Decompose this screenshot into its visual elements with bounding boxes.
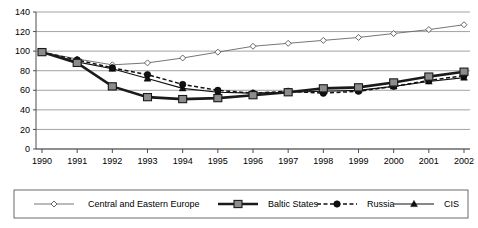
- data-point-marker: [425, 73, 433, 80]
- series-3: [39, 49, 468, 96]
- data-point-marker: [461, 22, 467, 28]
- data-point-marker: [144, 71, 150, 77]
- data-point-marker: [73, 59, 81, 66]
- data-point-marker: [285, 40, 291, 46]
- series-1: [38, 49, 468, 103]
- series-line: [42, 52, 464, 93]
- legend: Central and Eastern EuropeBaltic StatesR…: [14, 190, 468, 218]
- x-tick-labels: 1990199119921993199419951996199719981999…: [32, 149, 474, 166]
- data-point-marker: [284, 89, 292, 96]
- legend-label: Russia: [367, 199, 395, 209]
- data-point-marker: [51, 201, 57, 207]
- legend-label: Baltic States: [268, 199, 319, 209]
- x-tick-label: 1993: [137, 156, 157, 166]
- data-point-marker: [356, 34, 362, 40]
- data-point-marker: [215, 49, 221, 55]
- data-point-marker: [319, 85, 327, 92]
- legend-item-baltic-states[interactable]: Baltic States: [218, 199, 319, 209]
- data-point-marker: [390, 79, 398, 86]
- series-0: [39, 22, 467, 68]
- legend-item-cis[interactable]: CIS: [394, 199, 459, 209]
- y-tick-label: 80: [20, 66, 30, 76]
- data-point-marker: [460, 68, 468, 75]
- x-tick-label: 1991: [67, 156, 87, 166]
- x-tick-label: 1998: [313, 156, 333, 166]
- y-tick-label: 40: [20, 105, 30, 115]
- legend-item-russia[interactable]: Russia: [317, 199, 395, 209]
- legend-label: CIS: [444, 199, 459, 209]
- data-point-marker: [334, 201, 340, 207]
- data-point-marker: [109, 65, 115, 71]
- line-chart: 020406080100120140 199019911992199319941…: [0, 0, 478, 228]
- x-tick-label: 1994: [173, 156, 193, 166]
- data-point-marker: [320, 37, 326, 43]
- y-tick-label: 100: [15, 46, 30, 56]
- legend-item-central-and-eastern-europe[interactable]: Central and Eastern Europe: [34, 199, 200, 209]
- legend-label: Central and Eastern Europe: [88, 199, 200, 209]
- x-tick-label: 2000: [384, 156, 404, 166]
- data-point-marker: [179, 95, 187, 102]
- x-tick-label: 2001: [419, 156, 439, 166]
- x-tick-label: 2002: [454, 156, 474, 166]
- y-tick-label: 20: [20, 125, 30, 135]
- y-tick-label: 60: [20, 85, 30, 95]
- x-tick-label: 1990: [32, 156, 52, 166]
- data-point-marker: [249, 92, 257, 99]
- data-point-marker: [214, 95, 222, 102]
- data-point-marker: [250, 43, 256, 49]
- series-line: [42, 52, 464, 93]
- y-tick-labels: 020406080100120140: [15, 7, 36, 154]
- x-tick-label: 1995: [208, 156, 228, 166]
- y-tick-label: 0: [25, 144, 30, 154]
- x-tick-label: 1997: [278, 156, 298, 166]
- y-tick-label: 120: [15, 27, 30, 37]
- data-point-marker: [108, 83, 116, 90]
- data-point-marker: [234, 200, 242, 207]
- x-tick-label: 1999: [348, 156, 368, 166]
- chart-page: 020406080100120140 199019911992199319941…: [0, 0, 478, 228]
- data-point-marker: [180, 55, 186, 61]
- data-point-marker: [179, 81, 185, 87]
- data-point-marker: [145, 60, 151, 66]
- x-tick-label: 1992: [102, 156, 122, 166]
- data-point-marker: [38, 49, 46, 56]
- data-point-marker: [144, 94, 152, 101]
- x-tick-label: 1996: [243, 156, 263, 166]
- data-point-marker: [215, 87, 221, 93]
- y-tick-label: 140: [15, 7, 30, 17]
- data-point-marker: [355, 84, 363, 91]
